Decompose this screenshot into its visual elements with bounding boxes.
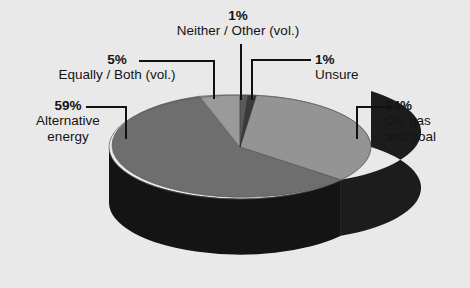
slice-category-oil-gas-coal-line1: Oil, gas bbox=[385, 113, 469, 128]
slice-percent-unsure: 1% bbox=[315, 52, 409, 67]
pie-3d-body bbox=[109, 91, 421, 255]
pie-chart-figure: 1% Neither / Other (vol.) 5% Equally / B… bbox=[0, 0, 470, 288]
slice-percent-neither-other: 1% bbox=[148, 8, 328, 23]
slice-label-unsure: 1% Unsure bbox=[315, 52, 409, 83]
slice-category-oil-gas-coal-line2: and coal bbox=[385, 129, 469, 144]
slice-percent-alternative-energy: 59% bbox=[12, 98, 124, 113]
slice-label-oil-gas-coal: 34% Oil, gas and coal bbox=[385, 98, 469, 144]
slice-category-alternative-energy-line2: energy bbox=[12, 129, 124, 144]
slice-label-neither-other: 1% Neither / Other (vol.) bbox=[148, 8, 328, 39]
leader-line-unsure bbox=[252, 60, 311, 100]
slice-category-neither-other: Neither / Other (vol.) bbox=[148, 23, 328, 38]
slice-category-alternative-energy-line1: Alternative bbox=[12, 113, 124, 128]
slice-category-unsure: Unsure bbox=[315, 67, 409, 82]
slice-label-equally-both: 5% Equally / Both (vol.) bbox=[28, 52, 206, 83]
slice-percent-equally-both: 5% bbox=[28, 52, 206, 67]
slice-category-equally-both: Equally / Both (vol.) bbox=[28, 67, 206, 82]
slice-label-alternative-energy: 59% Alternative energy bbox=[12, 98, 124, 144]
slice-percent-oil-gas-coal: 34% bbox=[385, 98, 469, 113]
